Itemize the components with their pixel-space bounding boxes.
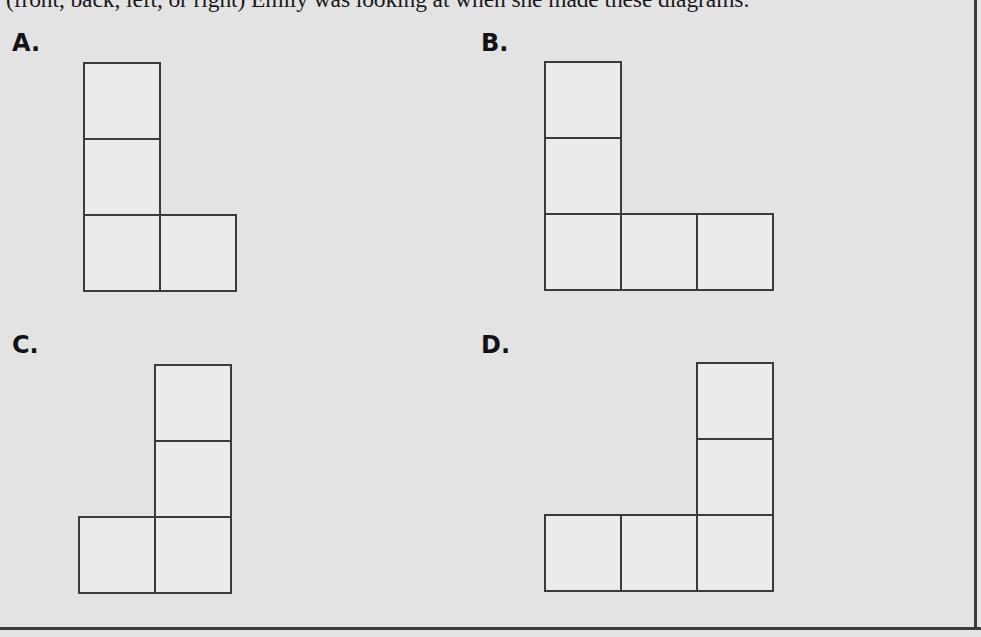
- diagram-gap: [621, 62, 697, 138]
- diagram-square: [696, 213, 774, 291]
- diagram-square: [696, 514, 774, 592]
- answer-diagram-d[interactable]: [545, 363, 773, 591]
- diagram-gap: [160, 139, 236, 215]
- diagram-square: [83, 138, 161, 216]
- diagram-gap: [79, 441, 155, 517]
- diagram-gap: [545, 439, 621, 515]
- diagram-square: [154, 516, 232, 594]
- answer-diagram-c[interactable]: [79, 365, 231, 593]
- diagram-gap: [621, 363, 697, 439]
- diagram-square: [696, 362, 774, 440]
- scanned-worksheet-page: (front, back, left, or right) Emily was …: [0, 0, 981, 637]
- page-bottom-rule: [0, 627, 981, 630]
- diagram-gap: [545, 363, 621, 439]
- diagram-gap: [621, 138, 697, 214]
- diagram-square: [83, 62, 161, 140]
- diagram-square: [620, 514, 698, 592]
- diagram-gap: [79, 365, 155, 441]
- diagram-square: [696, 438, 774, 516]
- diagram-square: [620, 213, 698, 291]
- answer-diagram-a[interactable]: [84, 63, 236, 291]
- diagram-square: [83, 214, 161, 292]
- diagram-square: [544, 213, 622, 291]
- diagram-gap: [621, 439, 697, 515]
- diagram-square: [544, 137, 622, 215]
- diagram-square: [154, 440, 232, 518]
- diagram-gap: [697, 138, 773, 214]
- option-label-c: C.: [12, 332, 39, 358]
- answer-diagram-b[interactable]: [545, 62, 773, 290]
- diagram-square: [154, 364, 232, 442]
- diagram-square: [78, 516, 156, 594]
- option-label-d: D.: [481, 332, 510, 358]
- diagram-square: [544, 514, 622, 592]
- diagram-square: [159, 214, 237, 292]
- page-right-rule: [974, 0, 977, 630]
- option-label-b: B.: [481, 30, 508, 56]
- question-prompt-text: (front, back, left, or right) Emily was …: [6, 0, 976, 14]
- diagram-gap: [697, 62, 773, 138]
- diagram-gap: [160, 63, 236, 139]
- diagram-square: [544, 61, 622, 139]
- option-label-a: A.: [12, 30, 40, 56]
